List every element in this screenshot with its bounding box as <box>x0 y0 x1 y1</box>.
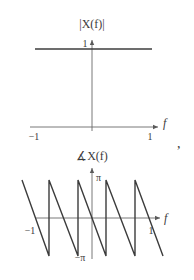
magnitude-level-label: 1 <box>83 38 88 49</box>
magnitude-tick-right: 1 <box>148 131 153 142</box>
magnitude-tick-left: −1 <box>29 131 40 142</box>
phase-title: ∡X(f) <box>76 149 108 163</box>
phase-tick-left: −1 <box>25 225 36 236</box>
phase-pi-label: π <box>96 172 101 183</box>
magnitude-x-label: f <box>163 116 168 130</box>
magnitude-title: |X(f)| <box>79 17 104 31</box>
figure-canvas: |X(f)| 1 f −1 1 , ∡X(f) π −π f −1 1 <box>0 0 194 280</box>
phase-plot: ∡X(f) π −π f −1 1 <box>22 149 169 263</box>
separator-comma: , <box>177 136 181 151</box>
phase-tick-right: 1 <box>149 225 154 236</box>
phase-x-label: f <box>164 211 169 225</box>
magnitude-plot: |X(f)| 1 f −1 1 <box>29 17 168 142</box>
phase-neg-pi-label: −π <box>75 252 86 263</box>
